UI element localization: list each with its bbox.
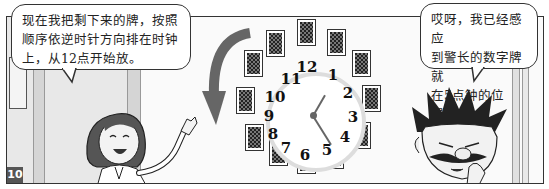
speech-line: 上，从12点开始放。 bbox=[22, 49, 180, 68]
counterclockwise-arrow-icon bbox=[202, 25, 262, 139]
speech-bubble-left-tail bbox=[62, 68, 78, 84]
speech-bubble-left: 现在我把剩下来的牌，按照 顺序依逆时针方向排在时钟 上，从12点开始放。 bbox=[11, 4, 191, 70]
card-3 bbox=[362, 85, 381, 112]
card-1 bbox=[327, 29, 346, 56]
clock-number-3: 3 bbox=[348, 108, 358, 126]
clock-number-4: 4 bbox=[340, 128, 350, 146]
card-11 bbox=[266, 30, 285, 57]
clock-number-11: 11 bbox=[281, 70, 302, 88]
card-2 bbox=[352, 50, 371, 77]
clock-number-7: 7 bbox=[281, 139, 291, 157]
clock-number-8: 8 bbox=[268, 125, 278, 143]
card-12 bbox=[297, 19, 316, 46]
clock-center bbox=[310, 112, 317, 119]
speech-line: 现在我把剩下来的牌，按照 bbox=[22, 11, 180, 30]
speech-line: 顺序依逆时针方向排在时钟 bbox=[22, 30, 180, 49]
card-8 bbox=[245, 124, 264, 151]
speech-bubble-right: 哎呀，我已经感应 到警长的数字牌就 在5点钟的位置。 bbox=[420, 3, 538, 69]
woman-character bbox=[77, 109, 207, 184]
panel-number-badge: 10 bbox=[7, 167, 23, 183]
clock-number-1: 1 bbox=[328, 66, 338, 84]
speech-line: 在5点钟的位置。 bbox=[431, 86, 527, 124]
clock-number-10: 10 bbox=[265, 88, 286, 106]
clock-number-9: 9 bbox=[264, 107, 274, 125]
speech-bubble-right-tail bbox=[470, 67, 486, 83]
speech-line: 哎呀，我已经感应 bbox=[431, 10, 527, 48]
card-9 bbox=[236, 87, 255, 114]
clock-number-2: 2 bbox=[343, 84, 353, 102]
clock-number-6: 6 bbox=[300, 146, 310, 164]
card-10 bbox=[244, 50, 263, 77]
